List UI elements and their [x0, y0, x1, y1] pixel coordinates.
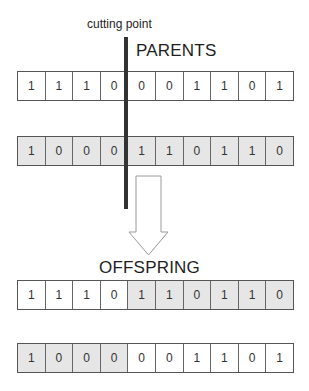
gene-cell: 0 [266, 281, 293, 309]
parent-2-chromosome: 1000110110 [17, 136, 294, 166]
gene-cell: 0 [128, 72, 156, 100]
gene-cell: 1 [266, 344, 293, 372]
gene-cell: 0 [46, 137, 74, 165]
gene-cell: 0 [46, 344, 74, 372]
offspring-title: OFFSPRING [99, 258, 200, 278]
gene-cell: 1 [266, 72, 293, 100]
gene-cell: 1 [156, 281, 184, 309]
gene-cell: 1 [239, 137, 267, 165]
gene-cell: 1 [211, 72, 239, 100]
gene-cell: 0 [73, 137, 101, 165]
gene-cell: 0 [239, 72, 267, 100]
gene-cell: 1 [156, 137, 184, 165]
gene-cell: 1 [18, 344, 46, 372]
parents-title: PARENTS [136, 41, 216, 61]
gene-cell: 1 [18, 137, 46, 165]
parent-1-chromosome: 1110001101 [17, 71, 294, 101]
gene-cell: 0 [156, 72, 184, 100]
gene-cell: 1 [18, 72, 46, 100]
gene-cell: 1 [211, 137, 239, 165]
gene-cell: 0 [101, 344, 129, 372]
gene-cell: 1 [46, 72, 74, 100]
gene-cell: 0 [128, 344, 156, 372]
gene-cell: 1 [128, 137, 156, 165]
gene-cell: 1 [128, 281, 156, 309]
gene-cell: 0 [184, 281, 212, 309]
offspring-2-chromosome: 1000001101 [17, 343, 294, 373]
gene-cell: 0 [239, 344, 267, 372]
gene-cell: 1 [73, 72, 101, 100]
gene-cell: 1 [46, 281, 74, 309]
gene-cell: 1 [73, 281, 101, 309]
gene-cell: 0 [73, 344, 101, 372]
gene-cell: 1 [211, 344, 239, 372]
gene-cell: 0 [266, 137, 293, 165]
offspring-1-chromosome: 1110110110 [17, 280, 294, 310]
down-arrow-icon [128, 175, 170, 257]
gene-cell: 1 [18, 281, 46, 309]
gene-cell: 1 [184, 72, 212, 100]
gene-cell: 0 [101, 281, 129, 309]
cutting-point-label: cutting point [87, 17, 152, 31]
gene-cell: 1 [184, 344, 212, 372]
gene-cell: 1 [239, 281, 267, 309]
gene-cell: 1 [211, 281, 239, 309]
gene-cell: 0 [184, 137, 212, 165]
gene-cell: 0 [156, 344, 184, 372]
